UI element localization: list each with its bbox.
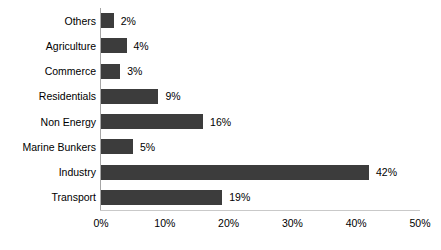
bar-non-energy xyxy=(101,114,203,129)
bar-row: Others2% xyxy=(0,8,441,33)
bar-row: Residentials9% xyxy=(0,84,441,109)
bar-rows-container: Others2%Agriculture4%Commerce3%Residenti… xyxy=(0,8,441,210)
bar-value-label: 3% xyxy=(127,65,142,77)
bar-residentials xyxy=(101,89,158,104)
bar-row: Non Energy16% xyxy=(0,109,441,134)
bar-row: Marine Bunkers5% xyxy=(0,134,441,159)
x-tick-0pct: 0% xyxy=(93,216,108,230)
bar-value-label: 19% xyxy=(229,191,250,203)
bar-value-label: 2% xyxy=(121,15,136,27)
bar-row: Agriculture4% xyxy=(0,33,441,58)
bar-row: Industry42% xyxy=(0,160,441,185)
bar-transport xyxy=(101,190,222,205)
bar-commerce xyxy=(101,64,120,79)
category-label-non-energy: Non Energy xyxy=(0,116,96,128)
bar-value-label: 42% xyxy=(376,166,397,178)
bar-wrapper: 16% xyxy=(101,114,231,129)
category-label-marine-bunkers: Marine Bunkers xyxy=(0,141,96,153)
bar-chart: Others2%Agriculture4%Commerce3%Residenti… xyxy=(0,0,441,250)
bar-wrapper: 3% xyxy=(101,64,142,79)
bar-value-label: 9% xyxy=(165,90,180,102)
category-label-commerce: Commerce xyxy=(0,65,96,77)
bar-wrapper: 42% xyxy=(101,165,397,180)
bar-wrapper: 9% xyxy=(101,89,181,104)
bar-row: Transport19% xyxy=(0,185,441,210)
bar-industry xyxy=(101,165,369,180)
x-tick-50pct: 50% xyxy=(409,216,430,230)
bar-value-label: 4% xyxy=(134,40,149,52)
bar-wrapper: 4% xyxy=(101,38,149,53)
bar-marine-bunkers xyxy=(101,139,133,154)
bar-agriculture xyxy=(101,38,127,53)
bar-row: Commerce3% xyxy=(0,59,441,84)
category-label-agriculture: Agriculture xyxy=(0,40,96,52)
category-label-others: Others xyxy=(0,15,96,27)
category-label-transport: Transport xyxy=(0,191,96,203)
category-label-residentials: Residentials xyxy=(0,90,96,102)
x-axis-tick-labels: 0%10%20%30%40%50% xyxy=(101,216,420,236)
x-tick-40pct: 40% xyxy=(346,216,367,230)
bar-others xyxy=(101,13,114,28)
bar-wrapper: 19% xyxy=(101,190,250,205)
category-label-industry: Industry xyxy=(0,166,96,178)
x-tick-30pct: 30% xyxy=(282,216,303,230)
bar-value-label: 5% xyxy=(140,141,155,153)
x-axis-line xyxy=(100,210,420,211)
x-tick-20pct: 20% xyxy=(218,216,239,230)
bar-wrapper: 5% xyxy=(101,139,155,154)
bar-wrapper: 2% xyxy=(101,13,136,28)
bar-value-label: 16% xyxy=(210,116,231,128)
x-tick-10pct: 10% xyxy=(154,216,175,230)
